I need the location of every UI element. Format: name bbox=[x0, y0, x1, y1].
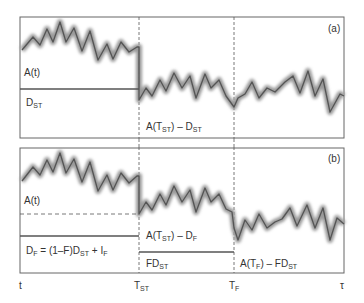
panel-b-signal bbox=[22, 153, 344, 240]
panel-b-signal-label: A(t) bbox=[24, 196, 40, 206]
axis-tau-label: τ bbox=[340, 281, 344, 291]
panel-b-df-equation: DF = (1–F)DST + IF bbox=[26, 246, 107, 257]
panel-a-tag: (a) bbox=[328, 24, 340, 34]
panel-b-region3-label: A(TF) – FDST bbox=[240, 259, 297, 270]
panel-a-signal-label: A(t) bbox=[24, 68, 40, 78]
panel-b-region2-label: A(TST) – DF bbox=[146, 231, 197, 242]
panel-b-tag: (b) bbox=[328, 154, 340, 164]
panel-a-region2-label: A(TST) – DST bbox=[146, 122, 202, 133]
axis-t-label: t bbox=[19, 281, 22, 291]
panel-a-signal bbox=[22, 22, 344, 112]
panel-a-dst-label: DST bbox=[26, 98, 42, 109]
axis-tf-label: TF bbox=[229, 281, 239, 292]
panel-b-fdst-label: FDST bbox=[146, 259, 168, 270]
diagram-canvas bbox=[0, 0, 364, 303]
axis-tst-label: TST bbox=[134, 281, 149, 292]
